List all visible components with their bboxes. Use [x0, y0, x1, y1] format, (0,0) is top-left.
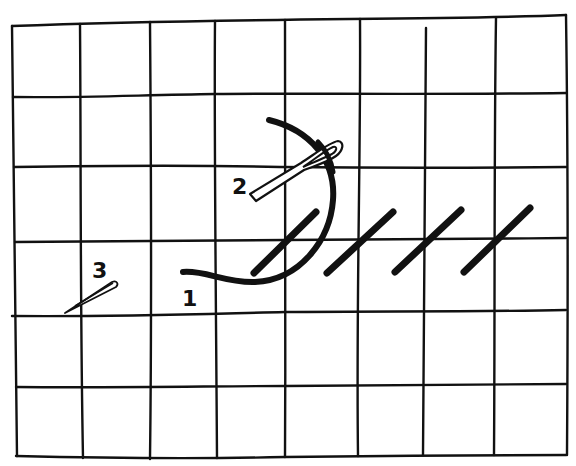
- grid-line-h-5: [16, 384, 566, 387]
- small-needle-icon: [65, 281, 117, 313]
- stitch-3: [395, 210, 461, 272]
- diagram-canvas: 1 2 3: [0, 0, 576, 466]
- needle-at-step-3: [65, 281, 117, 313]
- grid-line-v-2: [150, 22, 151, 459]
- stitch-4: [464, 208, 530, 272]
- grid-line-h-1: [13, 93, 566, 97]
- grid-line-h-6: [16, 455, 566, 458]
- grid-line-v-5: [358, 19, 361, 456]
- label-step-1: 1: [182, 286, 197, 311]
- label-step-3: 3: [92, 258, 107, 283]
- grid-line-h-4: [12, 310, 566, 316]
- curved-thread: [183, 120, 333, 282]
- grid-line-h-0: [12, 15, 566, 26]
- stitch-2: [327, 212, 393, 273]
- grid-line-h-2: [14, 166, 566, 168]
- grid-line-v-8: [566, 15, 568, 455]
- label-step-2: 2: [232, 174, 247, 199]
- stitch-diagram: 1 2 3: [0, 0, 576, 466]
